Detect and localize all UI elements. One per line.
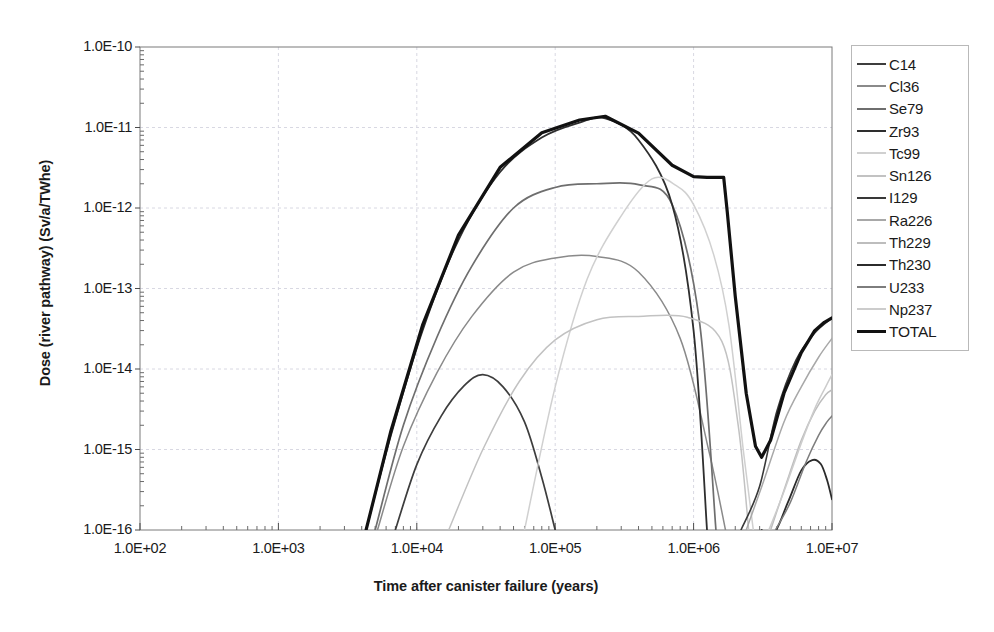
x-tick-label: 1.0E+07 [780, 540, 884, 556]
legend-swatch-th230 [857, 264, 886, 266]
x-tick-label: 1.0E+02 [88, 540, 192, 556]
y-tick-label: 1.0E-11 [48, 119, 132, 135]
legend-swatch-cl36 [857, 85, 886, 87]
dose-chart: Dose (river pathway) (Sv/a/TWhe) Time af… [0, 0, 994, 632]
legend-item-np237[interactable]: Np237 [857, 298, 964, 320]
legend-swatch-u233 [857, 286, 886, 288]
legend-swatch-np237 [857, 308, 886, 310]
legend-label: Ra226 [889, 213, 932, 228]
y-tick-label: 1.0E-16 [48, 521, 132, 537]
x-tick-label: 1.0E+06 [642, 540, 746, 556]
legend-item-i129[interactable]: I129 [857, 187, 964, 209]
legend-item-c14[interactable]: C14 [857, 53, 964, 75]
legend-item-se79[interactable]: Se79 [857, 98, 964, 120]
legend-label: U233 [889, 280, 924, 295]
legend-item-th229[interactable]: Th229 [857, 231, 964, 253]
x-tick-label: 1.0E+03 [226, 540, 330, 556]
legend-item-cl36[interactable]: Cl36 [857, 75, 964, 97]
legend-swatch-sn126 [857, 175, 886, 177]
legend-item-tc99[interactable]: Tc99 [857, 142, 964, 164]
series-line-tc99 [525, 177, 754, 530]
y-tick-label: 1.0E-15 [48, 441, 132, 457]
legend-label: Th230 [889, 257, 931, 272]
legend-swatch-ra226 [857, 219, 886, 221]
series-line-c14 [395, 375, 555, 530]
legend-label: Th229 [889, 235, 931, 250]
legend-item-th230[interactable]: Th230 [857, 254, 964, 276]
legend-label: Zr93 [889, 124, 919, 139]
legend-label: Sn126 [889, 168, 931, 183]
y-tick-label: 1.0E-12 [48, 199, 132, 215]
series-line-cl36 [377, 255, 725, 530]
legend-item-ra226[interactable]: Ra226 [857, 209, 964, 231]
legend-swatch-total [857, 330, 886, 333]
series-line-sn126 [449, 315, 749, 530]
legend-item-zr93[interactable]: Zr93 [857, 120, 964, 142]
x-axis-title: Time after canister failure (years) [140, 578, 832, 594]
legend-swatch-tc99 [857, 152, 886, 154]
legend-swatch-zr93 [857, 130, 886, 132]
x-tick-label: 1.0E+05 [503, 540, 607, 556]
legend-label: Cl36 [889, 79, 919, 94]
series-legend: C14Cl36Se79Zr93Tc99Sn126I129Ra226Th229Th… [851, 45, 969, 351]
legend-swatch-c14 [857, 63, 886, 65]
legend-label: TOTAL [889, 324, 937, 340]
legend-label: C14 [889, 57, 916, 72]
legend-label: I129 [889, 190, 917, 205]
series-line-se79 [375, 183, 716, 530]
legend-swatch-se79 [857, 108, 886, 110]
plot-area [0, 0, 994, 632]
legend-label: Np237 [889, 302, 932, 317]
legend-item-sn126[interactable]: Sn126 [857, 164, 964, 186]
y-tick-label: 1.0E-13 [48, 280, 132, 296]
y-tick-label: 1.0E-14 [48, 360, 132, 376]
legend-label: Se79 [889, 101, 923, 116]
legend-item-total[interactable]: TOTAL [857, 321, 964, 343]
data-series-group [366, 116, 832, 535]
y-tick-label: 1.0E-10 [48, 38, 132, 54]
series-line-i129 [741, 318, 832, 530]
legend-item-u233[interactable]: U233 [857, 276, 964, 298]
legend-swatch-i129 [857, 197, 886, 199]
legend-swatch-th229 [857, 242, 886, 244]
legend-label: Tc99 [889, 146, 920, 161]
x-tick-label: 1.0E+04 [365, 540, 469, 556]
series-line-total [366, 116, 832, 530]
